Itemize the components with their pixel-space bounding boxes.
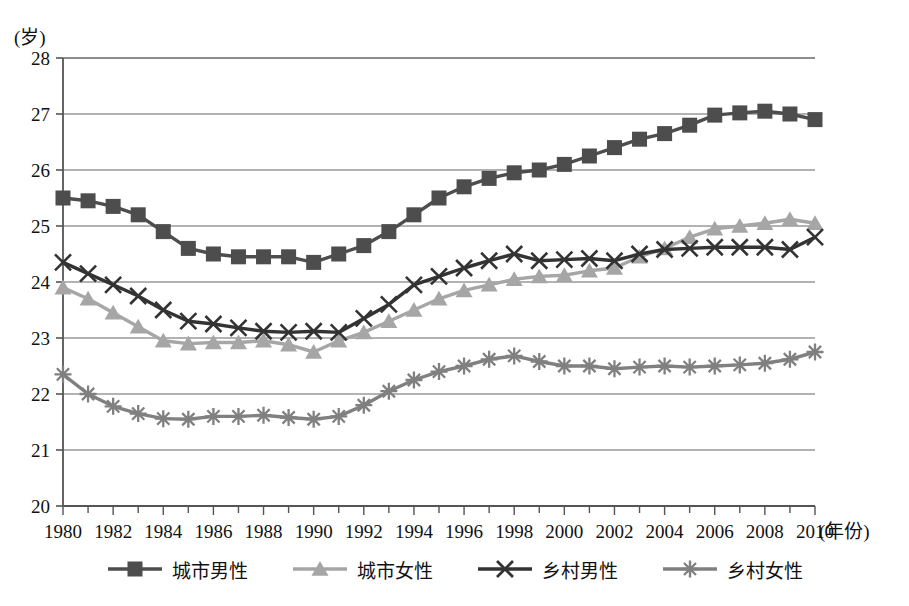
data-point-square <box>432 191 447 206</box>
x-axis-tick-label: 1998 <box>495 521 533 542</box>
data-point-triangle <box>405 302 422 317</box>
data-point-asterisk <box>506 347 523 364</box>
line-chart: 2827262524232221201980198219841986198819… <box>0 0 909 606</box>
x-axis-tick-label: 1990 <box>295 521 333 542</box>
x-axis-tick-label: 1988 <box>245 521 283 542</box>
data-point-square <box>707 108 722 123</box>
legend-marker-square-icon <box>107 559 163 579</box>
series-0 <box>56 104 823 270</box>
data-point-cross <box>356 310 372 326</box>
y-axis-tick-label: 22 <box>31 384 50 405</box>
y-axis-tick-label: 23 <box>31 328 50 349</box>
x-axis-tick-label: 2006 <box>696 521 734 542</box>
data-point-square <box>482 171 497 186</box>
data-point-asterisk <box>255 407 272 424</box>
data-point-asterisk <box>80 386 97 403</box>
data-point-asterisk <box>230 408 247 425</box>
chart-legend: 城市男性城市女性乡村男性乡村女性 <box>0 548 909 590</box>
data-point-asterisk <box>130 405 147 422</box>
data-point-square <box>808 112 823 127</box>
chart-container: (岁) 282726252423222120198019821984198619… <box>0 0 909 606</box>
legend-marker-cross-icon <box>477 559 533 579</box>
series-3 <box>55 344 824 428</box>
data-point-square <box>306 255 321 270</box>
data-point-asterisk <box>155 410 172 427</box>
x-axis-tick-label: 1980 <box>44 521 82 542</box>
x-axis-tick-label: 1986 <box>194 521 232 542</box>
data-point-square <box>657 126 672 141</box>
x-axis-tick-label: 1984 <box>144 521 183 542</box>
legend-item-0[interactable]: 城市男性 <box>107 556 248 583</box>
data-point-square <box>256 249 271 264</box>
data-point-asterisk <box>355 397 372 414</box>
data-point-asterisk <box>556 358 573 375</box>
data-point-square <box>181 241 196 256</box>
y-axis-tick-label: 20 <box>31 496 50 517</box>
data-point-cross <box>80 266 96 282</box>
legend-label: 乡村男性 <box>542 556 618 583</box>
legend-marker-triangle-icon <box>292 559 348 579</box>
data-point-asterisk <box>531 353 548 370</box>
data-point-asterisk <box>631 359 648 376</box>
x-axis-tick-label: 1994 <box>395 521 434 542</box>
data-point-cross <box>130 288 146 304</box>
data-point-asterisk <box>706 358 723 375</box>
data-point-asterisk <box>205 408 222 425</box>
data-point-cross <box>105 277 121 293</box>
x-axis-tick-label: 2002 <box>595 521 633 542</box>
data-point-square <box>356 238 371 253</box>
data-point-square <box>582 149 597 164</box>
x-axis-tick-label: 2008 <box>746 521 784 542</box>
data-point-asterisk <box>481 351 498 368</box>
y-axis-tick-label: 28 <box>31 48 50 69</box>
y-axis-tick-label: 24 <box>31 272 51 293</box>
data-point-triangle <box>380 313 397 328</box>
y-axis-tick-label: 27 <box>31 104 50 125</box>
x-axis-tick-label: 1982 <box>94 521 132 542</box>
data-point-asterisk <box>807 344 824 361</box>
data-point-asterisk <box>681 359 698 376</box>
x-axis-tick-label: 2004 <box>646 521 685 542</box>
data-point-asterisk <box>656 358 673 375</box>
data-point-asterisk <box>456 358 473 375</box>
data-point-asterisk <box>380 383 397 400</box>
series-line <box>63 111 815 262</box>
data-point-square <box>757 104 772 119</box>
data-point-square <box>782 107 797 122</box>
legend-item-3[interactable]: 乡村女性 <box>662 556 803 583</box>
legend-item-2[interactable]: 乡村男性 <box>477 556 618 583</box>
data-point-square <box>81 193 96 208</box>
data-point-cross <box>155 302 171 318</box>
data-point-square <box>156 224 171 239</box>
series-line <box>63 352 815 419</box>
data-point-triangle <box>80 291 97 306</box>
data-point-square <box>732 105 747 120</box>
data-point-square <box>457 179 472 194</box>
data-point-square <box>507 165 522 180</box>
data-point-asterisk <box>405 372 422 389</box>
data-point-asterisk <box>606 360 623 377</box>
y-axis-tick-label: 26 <box>31 160 50 181</box>
data-point-asterisk <box>781 351 798 368</box>
data-point-asterisk <box>55 366 72 383</box>
data-point-triangle <box>105 305 122 320</box>
data-point-triangle <box>130 319 147 334</box>
x-axis-tick-label: 1996 <box>445 521 483 542</box>
data-point-square <box>406 207 421 222</box>
data-point-square <box>281 249 296 264</box>
data-point-square <box>682 118 697 133</box>
data-point-square <box>532 163 547 178</box>
series-2 <box>55 229 823 340</box>
data-point-triangle <box>355 324 372 339</box>
data-point-square <box>206 247 221 262</box>
legend-item-1[interactable]: 城市女性 <box>292 556 433 583</box>
data-point-cross <box>381 296 397 312</box>
data-point-cross <box>406 277 422 293</box>
data-point-asterisk <box>180 411 197 428</box>
x-axis-tick-label: 1992 <box>345 521 383 542</box>
x-axis-title: (年份) <box>819 521 870 543</box>
data-point-asterisk <box>581 358 598 375</box>
data-point-square <box>331 247 346 262</box>
y-axis-tick-label: 21 <box>31 440 50 461</box>
data-point-asterisk <box>305 411 322 428</box>
